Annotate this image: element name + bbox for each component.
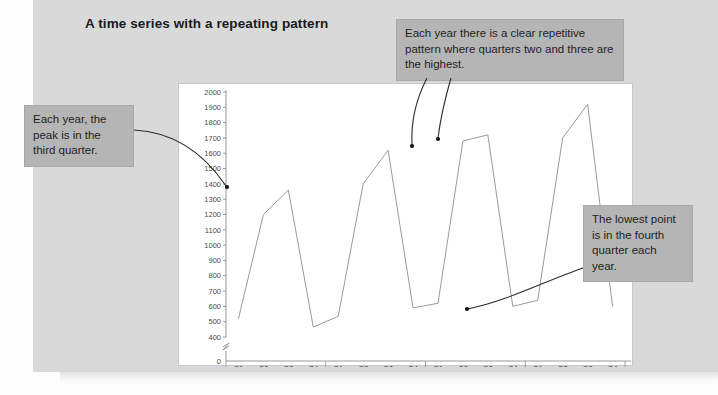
svg-text:1800: 1800	[204, 118, 221, 127]
svg-text:1500: 1500	[204, 164, 221, 173]
svg-text:Q4: Q4	[508, 364, 518, 367]
svg-text:Q3: Q3	[483, 364, 493, 367]
svg-text:Q2: Q2	[558, 364, 568, 367]
annotation-pattern: Each year there is a clear repetitive pa…	[396, 19, 624, 81]
svg-text:Q1: Q1	[333, 364, 343, 367]
svg-text:2000: 2000	[204, 88, 221, 97]
svg-text:Q4: Q4	[308, 364, 318, 367]
annotation-lowest: The lowest point is in the fourth quarte…	[583, 205, 693, 282]
time-series-chart: 4005006007008009001000110012001300140015…	[179, 84, 634, 367]
svg-text:600: 600	[208, 302, 221, 311]
svg-text:1400: 1400	[204, 180, 221, 189]
slide-stage: A time series with a repeating pattern 4…	[0, 0, 718, 395]
svg-text:1300: 1300	[204, 195, 221, 204]
svg-text:1900: 1900	[204, 103, 221, 112]
svg-text:800: 800	[208, 271, 221, 280]
svg-text:Q3: Q3	[383, 364, 393, 367]
svg-text:1000: 1000	[204, 241, 221, 250]
svg-text:0: 0	[217, 357, 221, 366]
svg-text:Q2: Q2	[358, 364, 368, 367]
annotation-peak: Each year, the peak is in the third quar…	[24, 105, 134, 167]
chart-card: 4005006007008009001000110012001300140015…	[178, 83, 633, 366]
svg-text:1200: 1200	[204, 210, 221, 219]
svg-text:Q4: Q4	[408, 364, 418, 367]
svg-text:500: 500	[208, 317, 221, 326]
svg-text:Q1: Q1	[533, 364, 543, 367]
svg-text:1600: 1600	[204, 149, 221, 158]
svg-text:Q3: Q3	[283, 364, 293, 367]
svg-text:Q2: Q2	[258, 364, 268, 367]
page-title: A time series with a repeating pattern	[85, 16, 328, 31]
svg-text:700: 700	[208, 287, 221, 296]
svg-text:Q3: Q3	[583, 364, 593, 367]
svg-text:Q4: Q4	[608, 364, 618, 367]
svg-text:Q2: Q2	[458, 364, 468, 367]
svg-text:1700: 1700	[204, 134, 221, 143]
svg-text:400: 400	[208, 333, 221, 342]
svg-text:1100: 1100	[205, 226, 221, 235]
slide-shadow	[60, 372, 718, 382]
svg-text:Q1: Q1	[433, 364, 443, 367]
svg-text:900: 900	[208, 256, 221, 265]
svg-text:Q1: Q1	[233, 364, 243, 367]
